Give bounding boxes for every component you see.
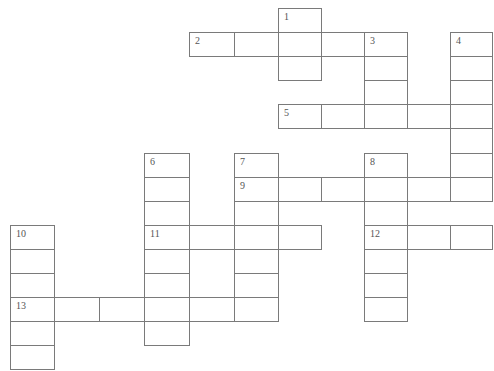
crossword-cell[interactable] [407,177,451,202]
crossword-cell[interactable] [10,321,55,346]
crossword-cell[interactable] [364,104,408,129]
crossword-cell[interactable] [278,225,322,250]
crossword-cell[interactable] [144,321,190,346]
crossword-cell[interactable] [364,56,408,81]
crossword-cell[interactable] [10,345,55,370]
crossword-cell[interactable] [364,273,408,298]
crossword-cell[interactable]: 8 [364,153,408,178]
clue-number: 3 [370,36,375,46]
crossword-cell[interactable] [234,32,279,57]
crossword-cell[interactable] [364,249,408,274]
crossword-cell[interactable] [278,177,322,202]
crossword-cell[interactable]: 2 [189,32,235,57]
crossword-cell[interactable] [10,249,55,274]
clue-number: 11 [150,229,160,239]
crossword-cell[interactable] [450,104,493,129]
clue-number: 12 [370,229,380,239]
clue-number: 8 [370,157,375,167]
crossword-cell[interactable] [278,32,322,57]
crossword-cell[interactable] [364,177,408,202]
crossword-cell[interactable] [407,104,451,129]
crossword-cell[interactable] [364,201,408,226]
clue-number: 13 [16,301,26,311]
crossword-cell[interactable] [144,273,190,298]
crossword-cell[interactable]: 5 [278,104,322,129]
crossword-cell[interactable]: 1 [278,8,322,33]
crossword-cell[interactable]: 4 [450,32,493,57]
crossword-cell[interactable] [234,249,279,274]
crossword-cell[interactable] [278,56,322,81]
crossword-cell[interactable] [10,273,55,298]
crossword-cell[interactable]: 11 [144,225,190,250]
crossword-cell[interactable] [321,32,365,57]
crossword-cell[interactable] [99,297,145,322]
clue-number: 4 [456,36,461,46]
crossword-cell[interactable]: 10 [10,225,55,250]
crossword-cell[interactable] [234,201,279,226]
crossword-cell[interactable] [189,297,235,322]
crossword-cell[interactable] [54,297,100,322]
crossword-cell[interactable] [321,177,365,202]
crossword-cell[interactable] [450,225,493,250]
crossword-cell[interactable]: 6 [144,153,190,178]
crossword-cell[interactable] [450,128,493,154]
crossword-cell[interactable] [364,297,408,322]
clue-number: 7 [240,157,245,167]
crossword-cell[interactable]: 13 [10,297,55,322]
crossword-cell[interactable] [189,225,235,250]
crossword-cell[interactable] [234,225,279,250]
crossword-cell[interactable] [234,273,279,298]
clue-number: 1 [284,12,289,22]
clue-number: 10 [16,229,26,239]
crossword-cell[interactable] [450,177,493,202]
crossword-cell[interactable] [144,201,190,226]
crossword-cell[interactable] [364,80,408,105]
crossword-cell[interactable]: 12 [364,225,408,250]
crossword-cell[interactable] [321,104,365,129]
crossword-cell[interactable]: 9 [234,177,279,202]
clue-number: 5 [284,108,289,118]
clue-number: 9 [240,181,245,191]
crossword-cell[interactable] [450,80,493,105]
crossword-cell[interactable]: 7 [234,153,279,178]
crossword-cell[interactable] [234,297,279,322]
crossword-cell[interactable] [144,249,190,274]
crossword-cell[interactable] [144,177,190,202]
crossword-cell[interactable] [407,225,451,250]
clue-number: 2 [195,36,200,46]
crossword-cell[interactable] [450,153,493,178]
crossword-grid: 12345611798121013 [0,0,494,371]
clue-number: 6 [150,157,155,167]
crossword-cell[interactable]: 3 [364,32,408,57]
crossword-cell[interactable] [450,56,493,81]
crossword-cell[interactable] [144,297,190,322]
